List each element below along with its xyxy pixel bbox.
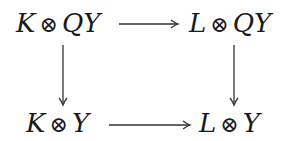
arrow-right-vertical bbox=[230, 45, 238, 105]
arrows-layer bbox=[0, 0, 291, 141]
arrow-left-vertical bbox=[59, 45, 67, 105]
arrow-bottom-horizontal bbox=[109, 121, 190, 129]
arrow-top-horizontal bbox=[119, 20, 178, 28]
